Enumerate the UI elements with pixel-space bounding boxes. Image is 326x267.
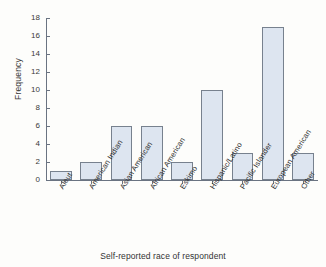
x-axis-category-labels: AleutAmerican IndianAsian AmericanAfrica… (46, 186, 318, 244)
y-tick-label: 8 (36, 103, 40, 112)
bar-chart-figure: Frequency 024681012141618 AleutAmerican … (0, 0, 326, 267)
y-axis-label: Frequency (13, 29, 23, 129)
y-tick-label: 18 (31, 13, 40, 22)
plot-area: 024681012141618 (46, 18, 318, 181)
y-tick-label: 2 (36, 157, 40, 166)
y-tick-label: 0 (36, 175, 40, 184)
y-tick-label: 4 (36, 139, 40, 148)
y-tick-label: 16 (31, 31, 40, 40)
y-tick-label: 14 (31, 49, 40, 58)
y-tick-label: 6 (36, 121, 40, 130)
y-tick-label: 10 (31, 85, 40, 94)
x-axis-title: Self-reported race of respondent (0, 251, 326, 261)
bar-series (46, 18, 318, 180)
y-tick-label: 12 (31, 67, 40, 76)
